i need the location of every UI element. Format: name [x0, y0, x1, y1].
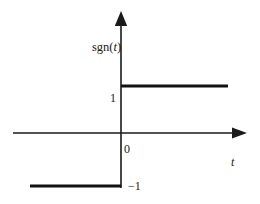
signum-function-figure: sgn(t) 1 0 −1 t	[0, 0, 260, 204]
signum-plot-canvas	[0, 0, 260, 204]
y-tick-label-negative-one: −1	[128, 180, 141, 192]
y-axis-arrowhead	[115, 11, 127, 26]
x-axis-arrowhead	[232, 127, 247, 138]
function-label-prefix: sgn(	[92, 40, 114, 54]
function-name-label: sgn(t)	[92, 41, 121, 54]
x-axis-label: t	[231, 156, 234, 168]
y-tick-label-positive-one: 1	[110, 92, 116, 104]
origin-label: 0	[124, 143, 130, 155]
function-label-suffix: )	[117, 40, 121, 54]
